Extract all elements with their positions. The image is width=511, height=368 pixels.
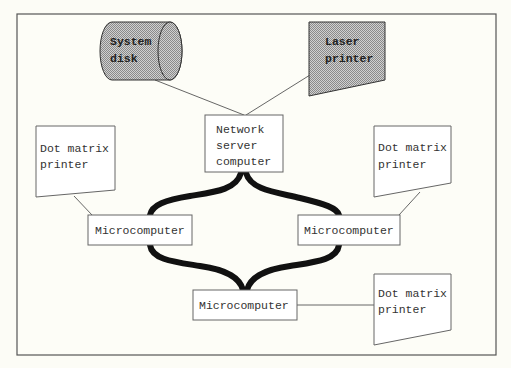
- laser-printer-label-line2: printer: [325, 52, 373, 65]
- micro-left-label: Microcomputer: [95, 224, 185, 237]
- left-printer-label-line2: printer: [40, 158, 88, 171]
- system-disk-label-line1: System: [110, 35, 152, 48]
- dot-matrix-printer-left: Dot matrix printer: [36, 126, 115, 197]
- micro-right-label: Microcomputer: [304, 224, 394, 237]
- server-label-line3: computer: [216, 155, 271, 168]
- server-label-line2: server: [216, 139, 257, 152]
- server-label-line1: Network: [216, 123, 264, 136]
- laser-printer-label-line1: Laser: [325, 35, 360, 48]
- system-disk: System disk: [100, 22, 182, 80]
- network-server-computer: Network server computer: [205, 115, 283, 172]
- micro-bottom-label: Microcomputer: [199, 299, 289, 312]
- left-printer-label-line1: Dot matrix: [40, 142, 109, 155]
- microcomputer-right: Microcomputer: [298, 215, 400, 245]
- microcomputer-left: Microcomputer: [88, 215, 192, 245]
- bottom-printer-label-line1: Dot matrix: [378, 287, 447, 300]
- system-disk-label-line2: disk: [110, 52, 138, 65]
- right-printer-label-line1: Dot matrix: [378, 141, 447, 154]
- microcomputer-bottom: Microcomputer: [193, 290, 297, 320]
- bottom-printer-label-line2: printer: [378, 303, 426, 316]
- right-printer-label-line2: printer: [378, 158, 426, 171]
- network-diagram: System disk Laser printer Network server…: [0, 0, 511, 368]
